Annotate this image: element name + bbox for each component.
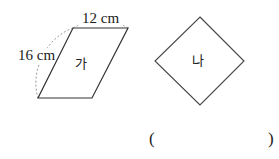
left-side-length: 16 cm bbox=[18, 48, 55, 63]
answer-close-paren: ) bbox=[268, 130, 274, 147]
answer-open-paren: ( bbox=[149, 130, 155, 147]
rhombus-label: 나 bbox=[192, 54, 204, 67]
parallelogram-label: 가 bbox=[75, 57, 87, 70]
top-side-length: 12 cm bbox=[80, 11, 121, 26]
answer-blank[interactable] bbox=[160, 130, 265, 148]
